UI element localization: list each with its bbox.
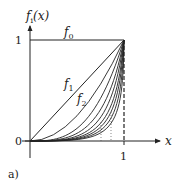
y-tick-0: 0: [15, 135, 22, 148]
label-f1: f1: [63, 77, 74, 93]
label-f0: f0: [63, 25, 74, 41]
x-tick-1: 1: [120, 150, 127, 163]
function-family-diagram: 1 0 1 fi(x) x f0 f1 f2 a): [0, 0, 180, 188]
panel-label: a): [8, 168, 19, 181]
x-axis-label: x: [165, 134, 172, 148]
label-f2: f2: [76, 92, 87, 108]
y-tick-1: 1: [15, 34, 22, 47]
y-axis-label: fi(x): [25, 9, 49, 25]
